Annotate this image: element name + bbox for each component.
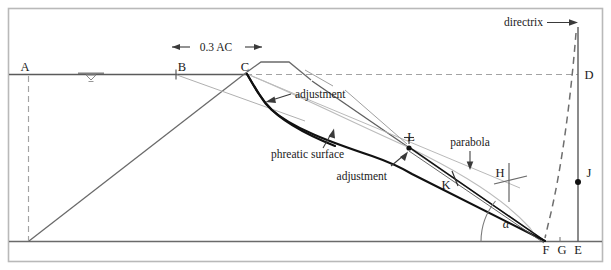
point-label-b: B	[178, 60, 186, 74]
leader-adjustment-lower	[391, 152, 408, 167]
annotation-directrix: directrix	[504, 16, 543, 28]
point-label-l: L	[407, 130, 415, 144]
point-label-d: D	[584, 68, 593, 82]
leader-arrow-directrix	[569, 19, 578, 25]
leader-parabola	[467, 151, 474, 170]
point-label-f: F	[543, 243, 550, 257]
annotation-adjustment-lower: adjustment	[337, 170, 388, 183]
upstream-slope-line	[29, 72, 247, 241]
dimension-label-0-3-ac: 0.3 AC	[200, 41, 233, 53]
construction-line-from-b	[177, 75, 305, 121]
point-marker-j	[575, 179, 581, 185]
phreatic-surface-figure: D ============ -->	[0, 0, 611, 270]
dam-crest-outline	[247, 62, 311, 80]
leader-long-adjustment	[345, 90, 407, 144]
angle-alpha-arc	[481, 201, 496, 242]
phreatic-surface-exit-segment	[409, 147, 545, 241]
figure-frame	[9, 9, 603, 262]
diagram-canvas: D ============ -->	[0, 0, 611, 270]
annotation-parabola: parabola	[450, 136, 490, 149]
point-label-e: E	[574, 243, 582, 257]
point-label-a: A	[20, 60, 29, 74]
phreatic-surface-entry-segment	[247, 74, 335, 146]
point-marker-l	[406, 145, 411, 150]
point-label-k: K	[441, 178, 450, 192]
dimension-arrow-left	[172, 44, 180, 50]
point-label-c: C	[241, 60, 249, 74]
leader-arrow-adjustment-upper	[266, 97, 277, 103]
point-label-h: H	[495, 166, 504, 180]
point-label-g: G	[557, 243, 566, 257]
point-label-j: J	[587, 166, 592, 180]
angle-label-alpha: α	[503, 217, 510, 231]
annotation-phreatic-surface: phreatic surface	[271, 148, 344, 161]
directrix-dashed-line	[545, 33, 576, 238]
dimension-arrow-right	[254, 44, 262, 50]
phreatic-surface-exit-shadow	[409, 151, 544, 243]
leader-directrix	[547, 19, 578, 25]
leader-arrow-adjustment-lower	[400, 152, 408, 162]
leader-adjustment-upper	[266, 94, 292, 103]
annotation-adjustment-upper: adjustment	[295, 88, 346, 101]
